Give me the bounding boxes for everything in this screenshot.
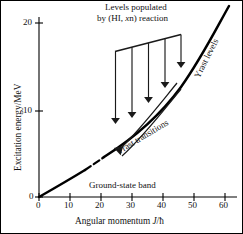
population-caption-line1: Levels populated: [105, 3, 167, 12]
yrast-curve-dashed: [85, 157, 104, 170]
y-tick-label-10: 10: [23, 106, 32, 115]
x-tick-label-20: 20: [95, 201, 104, 210]
x-axis-title-pre: Angular momentum: [75, 216, 152, 226]
y-tick-label-20: 20: [23, 18, 32, 27]
x-tick-label-50: 50: [188, 201, 197, 210]
y-axis-title: Excitation energy/MeV: [14, 84, 23, 171]
population-caption-line2: by (HI, xn) reaction: [97, 14, 168, 23]
x-tick-label-60: 60: [219, 201, 228, 210]
x-tick-label-10: 10: [64, 201, 73, 210]
yrast-curve-upper: [104, 6, 229, 157]
x-axis-title-post: /ħ: [157, 216, 164, 226]
x-axis-title: Angular momentum J/ħ: [75, 217, 164, 226]
caption-pre: by (HI,: [97, 13, 125, 23]
y-tick-label-0: 0: [29, 192, 34, 201]
x-tick-label-0: 0: [36, 201, 41, 210]
x-tick-label-30: 30: [126, 201, 135, 210]
x-tick-label-40: 40: [157, 201, 166, 210]
y-axis: [35, 17, 43, 197]
ground-state-band-label: Ground-state band: [89, 181, 156, 190]
yrast-diagram-figure: 20 10 0 0 10 20 30 40 50 60 Excitation e…: [0, 0, 243, 234]
decay-arrow-group: [116, 35, 182, 120]
caption-post: n) reaction: [129, 13, 168, 23]
yrast-curve-lower: [39, 170, 85, 197]
